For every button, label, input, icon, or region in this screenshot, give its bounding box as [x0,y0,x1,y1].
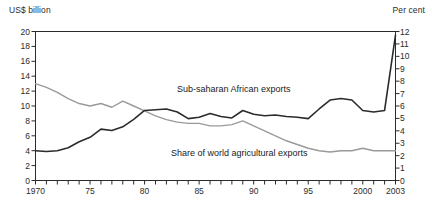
x-tick-label: 1970 [26,186,45,196]
series-annotation-exports: Sub-saharan African exports [177,84,291,94]
x-tick-label: 75 [85,186,94,196]
x-tick-label: 80 [140,186,149,196]
x-tick-label: 2003 [386,186,405,196]
x-tick-label: 2000 [353,186,372,196]
x-axis-tick-labels: 1970758085909520002003 [0,0,432,212]
x-tick-label: 95 [303,186,312,196]
chart-figure: US$ billion Per cent 02468101214161820 0… [0,0,432,212]
series-annotation-share: Share of world agricultural exports [171,148,308,158]
x-tick-label: 90 [249,186,258,196]
x-tick-label: 85 [194,186,203,196]
